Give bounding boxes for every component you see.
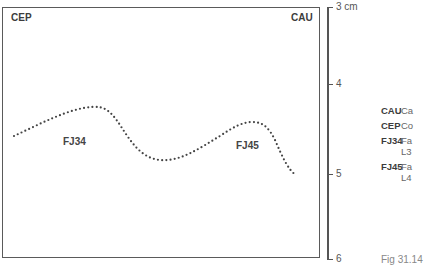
label-fj34: FJ34: [63, 136, 86, 147]
figure-caption: Fig 31.14: [381, 254, 423, 265]
scale-bar: [327, 7, 329, 260]
label-fj45: FJ45: [236, 140, 259, 151]
legend-item-cau: CAU Ca: [381, 103, 413, 118]
scale-tick-5: [327, 174, 333, 175]
dotted-curve: [0, 0, 424, 268]
scale-tick-3: [327, 7, 333, 8]
scale-label-5: 5: [336, 168, 342, 179]
legend-item-cep: CEP Co: [381, 118, 413, 133]
legend: CAU Ca CEP Co FJ34 Fa L3 FJ45 Fa L4: [381, 103, 413, 185]
scale-label-6: 6: [336, 253, 342, 264]
scale-tick-4: [327, 84, 333, 85]
scale-label-3cm: 3 cm: [336, 1, 358, 12]
scale-tick-6: [327, 259, 333, 260]
scale-label-4: 4: [336, 78, 342, 89]
